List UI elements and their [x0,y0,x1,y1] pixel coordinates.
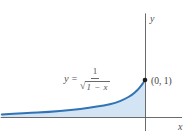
curve-equation: y = 1 √ 1 − x [64,67,110,92]
fraction-numerator: 1 [91,67,100,79]
point-marker [143,78,148,83]
x-axis-label: x [177,121,183,132]
equals-sign: = [72,75,77,85]
radicand: 1 − x [85,81,111,92]
equation-lhs: y [64,74,69,85]
fraction-denominator: √ 1 − x [80,79,110,92]
point-label: (0, 1) [151,76,172,87]
fraction: 1 √ 1 − x [80,67,110,92]
y-axis-label: y [149,13,155,24]
function-graph-figure: y x (0, 1) y = 1 √ 1 − x [0,0,192,139]
